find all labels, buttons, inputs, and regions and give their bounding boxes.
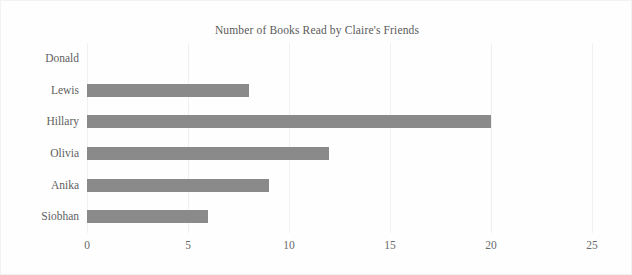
plot-area [87,43,592,233]
bar-row [87,138,592,170]
bar-row [87,106,592,138]
y-tick-label-lewis: Lewis [1,84,79,97]
bar-row [87,75,592,107]
bar-row [87,43,592,75]
gridline-x-25 [592,43,593,233]
x-tick-label-15: 15 [384,239,396,251]
bar-siobhan [87,210,208,223]
y-axis-labels: DonaldLewisHillaryOliviaAnikaSiobhan [1,43,79,233]
y-tick-label-olivia: Olivia [1,147,79,160]
y-tick-label-anika: Anika [1,179,79,192]
bar-chart-figure: Number of Books Read by Claire's Friends… [0,0,632,275]
bar-lewis [87,84,249,97]
y-tick-label-siobhan: Siobhan [1,210,79,223]
x-tick-label-25: 25 [586,239,598,251]
bar-olivia [87,147,329,160]
x-tick-label-10: 10 [283,239,295,251]
x-tick-label-20: 20 [485,239,497,251]
x-tick-label-0: 0 [84,239,90,251]
bar-row [87,201,592,233]
x-axis-labels: 0510152025 [87,239,592,257]
chart-title: Number of Books Read by Claire's Friends [1,24,632,36]
y-tick-label-hillary: Hillary [1,115,79,128]
x-tick-label-5: 5 [185,239,191,251]
bar-row [87,170,592,202]
bar-hillary [87,115,491,128]
y-tick-label-donald: Donald [1,52,79,65]
bar-anika [87,179,269,192]
